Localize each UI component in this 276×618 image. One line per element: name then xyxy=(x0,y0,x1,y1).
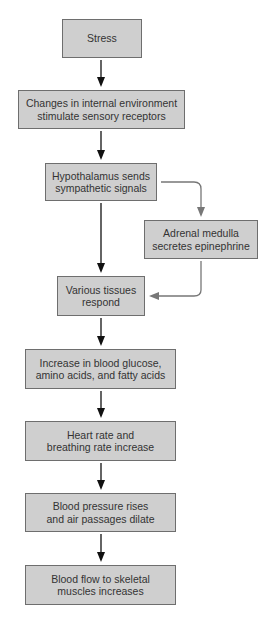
arrow-pressure-to-flow xyxy=(97,534,105,562)
node-various-tissues: Various tissues respond xyxy=(57,276,145,316)
node-label: Heart rate and breathing rate increase xyxy=(47,429,154,454)
arrow-hypothalamus-to-tissues xyxy=(97,203,105,273)
node-label: Various tissues respond xyxy=(66,284,136,309)
node-label: Hypothalamus sends sympathetic signals xyxy=(52,170,150,195)
node-hypothalamus: Hypothalamus sends sympathetic signals xyxy=(45,163,157,201)
arrow-stress-to-changes xyxy=(97,60,105,87)
arrow-tissues-to-increase xyxy=(97,318,105,346)
arrow-heart-to-pressure xyxy=(97,463,105,490)
node-label: Stress xyxy=(87,32,117,45)
node-label: Blood pressure rises and air passages di… xyxy=(47,500,155,525)
node-adrenal-medulla: Adrenal medulla secretes epinephrine xyxy=(144,220,258,259)
node-label: Blood flow to skeletal muscles increases xyxy=(51,573,150,598)
arrow-changes-to-hypothalamus xyxy=(97,131,105,160)
node-label: Changes in internal environment stimulat… xyxy=(26,97,177,122)
arrow-increase-to-heart xyxy=(97,391,105,418)
node-label: Increase in blood glucose, amino acids, … xyxy=(36,357,166,382)
node-changes-in-internal-environment: Changes in internal environment stimulat… xyxy=(18,90,185,129)
node-stress: Stress xyxy=(62,19,142,58)
node-label: Adrenal medulla secretes epinephrine xyxy=(152,227,249,252)
node-blood-flow: Blood flow to skeletal muscles increases xyxy=(25,565,176,605)
node-increase-blood-glucose: Increase in blood glucose, amino acids, … xyxy=(25,349,176,389)
arrow-hypothalamus-to-adrenal xyxy=(161,182,205,217)
node-heart-rate: Heart rate and breathing rate increase xyxy=(25,421,176,461)
node-blood-pressure: Blood pressure rises and air passages di… xyxy=(25,493,176,532)
arrow-adrenal-to-tissues xyxy=(149,261,201,300)
